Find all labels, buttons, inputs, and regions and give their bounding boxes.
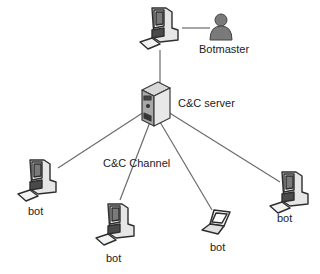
workstation-icon [138, 4, 184, 52]
edge-server-bot-right [168, 112, 280, 182]
botmaster-label: Botmaster [199, 43, 249, 55]
cc-server-label: C&C server [178, 97, 235, 109]
bot-middle-label: bot [106, 252, 121, 264]
bot-laptop-label: bot [210, 241, 225, 253]
workstation-icon [94, 200, 140, 248]
bot-right-label: bot [277, 212, 292, 224]
bot-left-label: bot [28, 205, 43, 217]
workstation-icon [268, 168, 314, 216]
server-icon [138, 80, 174, 128]
workstation-icon [16, 156, 62, 204]
person-icon [208, 12, 234, 42]
laptop-icon [200, 208, 234, 238]
cc-channel-label: C&C Channel [103, 157, 170, 169]
